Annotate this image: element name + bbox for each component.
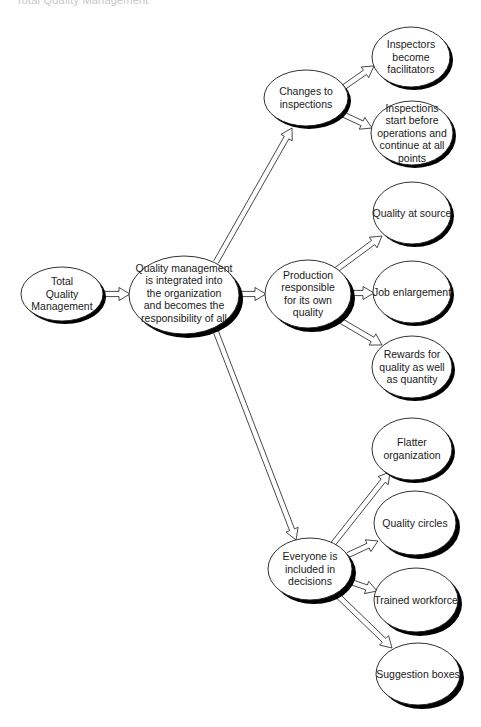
node-central: Quality managementis integrated intothe … (129, 256, 243, 338)
tqm-diagram: TotalQualityManagement Quality managemen… (0, 0, 481, 727)
arrow (334, 236, 382, 272)
node-circles-text: Quality circles (382, 517, 447, 529)
arrow (347, 540, 378, 558)
node-suggestion-text: Suggestion boxes (376, 668, 459, 680)
node-changes-to-inspections: Changes toinspections (264, 70, 351, 129)
arrow (214, 128, 292, 263)
node-quality-circles: Quality circles (374, 491, 460, 559)
node-inspections-start: Inspectionsstart beforeoperations andcon… (371, 101, 456, 168)
node-quality-at-source: Quality at source (373, 182, 454, 247)
node-central-text: Quality managementis integrated intothe … (136, 262, 233, 324)
node-production-responsible: Productionresponsiblefor its ownquality (265, 260, 355, 332)
node-inspectors-text: Inspectorsbecomefacilitators (387, 38, 435, 75)
arrow (343, 66, 374, 89)
node-everyone-text: Everyone isincluded indecisions (283, 550, 338, 587)
node-changes-text: Changes toinspections (279, 85, 333, 110)
node-rewards-text: Rewards forquality as wellas quantity (379, 348, 444, 385)
node-root: TotalQualityManagement (21, 267, 106, 324)
arrow (104, 288, 130, 301)
node-rewards: Rewards forquality as wellas quantity (372, 336, 455, 401)
node-flatter-organization: Flatterorganization (372, 418, 455, 483)
node-quality-source-text: Quality at source (373, 207, 452, 219)
node-trained-text: Trained workforce (374, 594, 458, 606)
node-suggestion-boxes: Suggestion boxes (376, 643, 464, 709)
arrow (214, 331, 299, 540)
node-trained-workforce: Trained workforce (374, 568, 462, 636)
node-everyone-included: Everyone isincluded indecisions (268, 538, 356, 604)
node-job-enlargement: Job enlargement (373, 261, 454, 326)
node-inspectors-facilitators: Inspectorsbecomefacilitators (372, 27, 453, 90)
node-job-text: Job enlargement (373, 286, 451, 298)
